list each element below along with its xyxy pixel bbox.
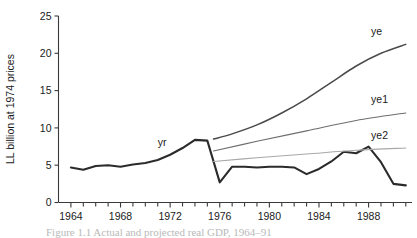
x-tick-label: 1968	[109, 210, 133, 222]
y-axis-title: LL billion at 1974 prices	[4, 54, 16, 164]
y-tick-label: 20	[40, 47, 52, 59]
line-chart: 0510152025 1964196819721976198019841988 …	[0, 0, 417, 238]
y-tick-label: 10	[40, 122, 52, 134]
x-axis: 1964196819721976198019841988	[59, 203, 413, 222]
figure-caption-strip: Figure 1.1 Actual and projected real GDP…	[46, 227, 386, 238]
y-axis-ticks	[55, 16, 59, 203]
series-line-ye2	[214, 148, 406, 161]
series-label-ye2: ye2	[371, 129, 388, 141]
chart-container: 0510152025 1964196819721976198019841988 …	[0, 0, 417, 238]
y-axis: 0510152025	[40, 10, 59, 209]
x-tick-label: 1980	[258, 210, 282, 222]
series-label-yr: yr	[158, 136, 167, 148]
series-line-ye	[214, 44, 406, 139]
y-axis-tick-labels: 0510152025	[40, 10, 52, 209]
x-tick-label: 1988	[357, 210, 381, 222]
series-label-ye: ye	[371, 25, 382, 37]
x-tick-label: 1976	[208, 210, 232, 222]
x-axis-tick-labels: 1964196819721976198019841988	[59, 210, 380, 222]
y-tick-label: 5	[46, 159, 52, 171]
chart-series-labels: yryeye1ye2	[158, 25, 388, 147]
y-tick-label: 15	[40, 84, 52, 96]
chart-series-group	[71, 44, 406, 185]
series-line-yr	[71, 140, 406, 186]
x-axis-minor-ticks	[71, 203, 406, 208]
y-tick-label: 25	[40, 10, 52, 22]
figure-caption: Figure 1.1 Actual and projected real GDP…	[46, 227, 386, 238]
y-tick-label: 0	[46, 196, 52, 208]
series-label-ye1: ye1	[371, 93, 388, 105]
x-tick-label: 1964	[59, 210, 83, 222]
x-tick-label: 1984	[307, 210, 331, 222]
x-tick-label: 1972	[158, 210, 182, 222]
